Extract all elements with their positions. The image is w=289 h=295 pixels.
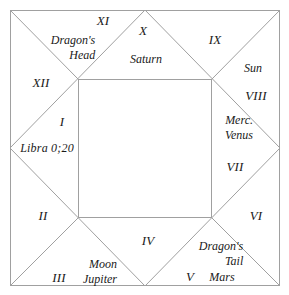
planet-label-sun: Sun — [244, 61, 262, 76]
node-label-dragons-tail: Dragon's Tail — [199, 239, 244, 269]
planet-label-mercury-venus: Merc. Venus — [225, 113, 253, 143]
planet-mars-line-1: Mars — [209, 270, 234, 285]
node-label-dragons-head: Dragon's Head — [51, 33, 96, 63]
horoscope-diagram: I II III IV V VI VII VIII IX X XI XII Sa… — [0, 0, 289, 295]
planet-label-moon-jupiter: Moon Jupiter — [83, 257, 117, 287]
planet-label-mars: Mars — [209, 270, 234, 285]
planet-jupiter-line: Jupiter — [83, 272, 117, 287]
planet-sun-line-1: Sun — [244, 61, 262, 76]
planet-saturn-line-1: Saturn — [130, 52, 162, 67]
dragons-tail-line-2: Tail — [199, 254, 244, 269]
dragons-head-line-2: Head — [51, 48, 96, 63]
house-numeral-ix: IX — [209, 33, 222, 47]
planet-mercury-line: Merc. — [225, 113, 253, 128]
diagonal-bottom-left — [10, 218, 78, 286]
dragons-head-line-1: Dragon's — [51, 33, 96, 48]
house-numeral-i: I — [60, 115, 65, 129]
house-numeral-vi: VI — [250, 209, 263, 223]
house-numeral-iii: III — [52, 271, 66, 285]
house-numeral-vii: VII — [226, 160, 243, 174]
planet-venus-line: Venus — [225, 128, 253, 143]
planet-label-saturn: Saturn — [130, 52, 162, 67]
ascendant-label: Libra 0;20 — [20, 142, 74, 155]
house-numeral-viii: VIII — [245, 89, 267, 103]
house-numeral-xi: XI — [97, 14, 110, 28]
house-numeral-iv: IV — [142, 234, 155, 248]
dragons-tail-line-1: Dragon's — [199, 239, 244, 254]
house-numeral-x: X — [139, 24, 147, 38]
house-numeral-ii: II — [38, 209, 47, 223]
house-numeral-v: V — [186, 270, 194, 284]
house-numeral-xii: XII — [32, 76, 49, 90]
planet-moon-line: Moon — [83, 257, 117, 272]
inner-square-border — [79, 80, 212, 218]
